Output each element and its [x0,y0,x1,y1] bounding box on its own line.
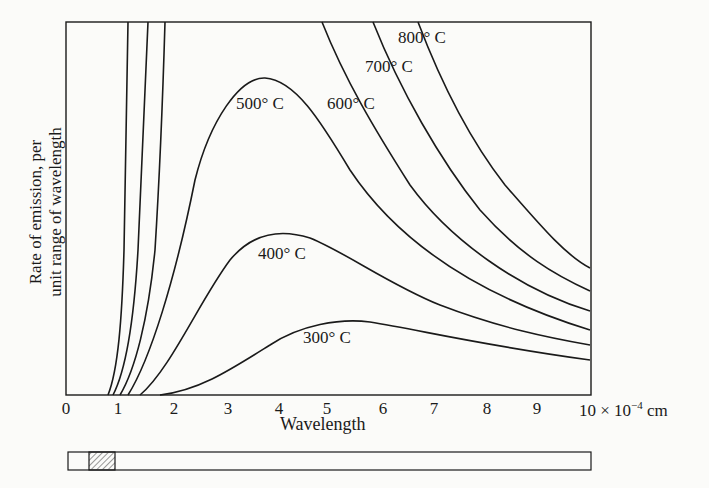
y-axis-label-line2: unit range of wavelength [46,52,66,372]
spectrum-strip [68,452,591,470]
curve-500c [128,78,590,395]
x-tick-10-unit: 10 × 10−4 cm [579,399,668,421]
curve-label-800c: 800° C [398,28,446,48]
x-tick-8: 8 [483,399,492,419]
curve-800c-rise [108,22,128,395]
x-unit-suffix: cm [643,401,668,420]
x-tick-9: 9 [533,399,542,419]
x-tick-1: 1 [114,399,123,419]
x-tick-3: 3 [224,399,233,419]
curve-600c-fall [322,22,590,311]
x-unit-base: 10 × 10 [579,401,631,420]
x-unit-exponent: −4 [631,399,643,411]
x-tick-6: 6 [379,399,388,419]
curve-800c-fall [418,22,590,268]
y-axis-label: Rate of emission, per unit range of wave… [26,52,66,372]
curve-label-400c: 400° C [258,244,306,264]
curve-label-300c: 300° C [303,328,351,348]
curve-400c [140,233,590,395]
x-tick-2: 2 [170,399,179,419]
curve-label-500c: 500° C [236,94,284,114]
x-tick-0: 0 [62,399,71,419]
visible-band [89,452,115,470]
curve-label-700c: 700° C [365,57,413,77]
curve-label-600c: 600° C [327,94,375,114]
x-tick-7: 7 [430,399,439,419]
x-axis-label: Wavelength [280,414,366,435]
y-axis-label-line1: Rate of emission, per [26,52,46,372]
